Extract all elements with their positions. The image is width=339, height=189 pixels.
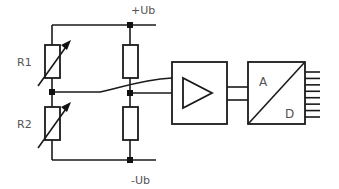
junction-node-bottom (127, 157, 133, 163)
variable-arrow-r1-head-icon (61, 40, 71, 50)
adc-digital-label: D (285, 107, 294, 121)
junction-node-top (127, 22, 133, 28)
junction-node-left (49, 89, 55, 95)
circuit-diagram: +Ub -Ub R1 R2 (0, 0, 339, 189)
resistor-r1: R1 (17, 40, 71, 86)
amplifier (172, 62, 227, 124)
bridge-left-output-wire (52, 78, 172, 92)
resistor-r2: R2 (17, 102, 71, 148)
resistor-r4-body (123, 107, 138, 140)
adc-output-pins (305, 72, 320, 117)
supply-negative-label: -Ub (131, 174, 150, 187)
adc: A D (248, 62, 305, 124)
supply-positive-label: +Ub (131, 4, 155, 17)
resistor-r2-label: R2 (17, 118, 32, 131)
resistor-r1-label: R1 (17, 56, 32, 69)
resistor-r3-body (123, 45, 138, 78)
variable-arrow-r2-head-icon (61, 102, 71, 112)
junction-node-right (127, 90, 133, 96)
adc-analog-label: A (259, 75, 268, 89)
